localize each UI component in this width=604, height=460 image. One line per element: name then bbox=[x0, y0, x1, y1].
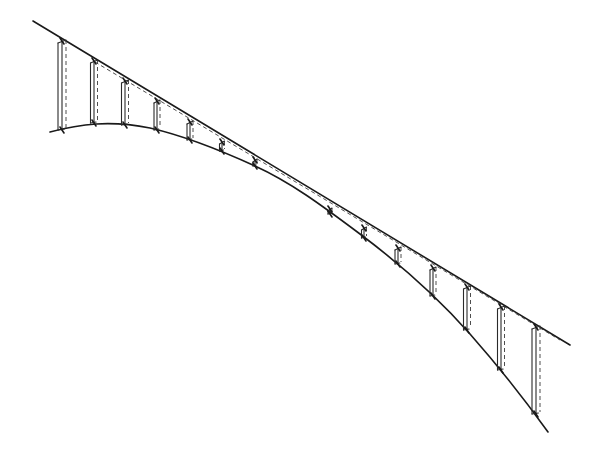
structure-sketch bbox=[0, 0, 604, 460]
strut bbox=[154, 98, 160, 133]
strut bbox=[395, 245, 401, 267]
strut bbox=[91, 58, 98, 126]
strut bbox=[328, 206, 332, 217]
strut bbox=[58, 38, 66, 133]
lower-curved-line bbox=[50, 124, 548, 432]
strut bbox=[532, 324, 540, 417]
strut bbox=[253, 157, 257, 169]
upper-straight-line bbox=[33, 21, 570, 345]
dashed-construction-line bbox=[95, 62, 560, 340]
strut bbox=[498, 304, 505, 373]
strut bbox=[430, 265, 436, 299]
strut bbox=[464, 284, 471, 333]
struts-group bbox=[58, 38, 540, 417]
strut bbox=[122, 78, 129, 128]
strut bbox=[187, 119, 193, 143]
